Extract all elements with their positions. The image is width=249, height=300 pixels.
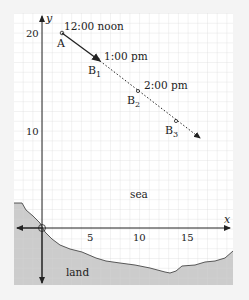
time-b1: 1:00 pm — [104, 50, 148, 62]
y-tick-10: 10 — [26, 126, 39, 137]
x-tick-10: 10 — [133, 232, 146, 243]
time-a: 12:00 noon — [64, 20, 124, 32]
time-b2: 2:00 pm — [144, 79, 188, 91]
x-tick-5: 5 — [87, 232, 93, 243]
point-b1 — [96, 57, 99, 60]
label-a: A — [56, 37, 66, 50]
sea-label: sea — [130, 188, 148, 200]
land-label: land — [66, 266, 89, 278]
ship-course-diagram: x y 5 10 15 20 10 A 12:00 noon B1 1:00 p… — [0, 0, 249, 300]
x-tick-15: 15 — [181, 232, 194, 243]
x-axis-label: x — [224, 213, 231, 226]
y-axis-label: y — [45, 12, 53, 25]
y-tick-20: 20 — [26, 28, 39, 39]
